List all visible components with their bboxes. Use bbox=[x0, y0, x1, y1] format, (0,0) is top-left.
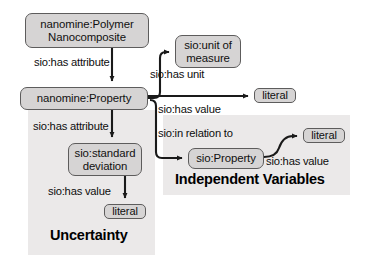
node-sio-property[interactable]: sio:Property bbox=[188, 148, 264, 169]
edge-has-value-independent bbox=[264, 136, 297, 157]
edge-label-has-value-unit: sio:has value bbox=[158, 104, 221, 115]
ontology-diagram: nanomine:Polymer Nanocomposite nanomine:… bbox=[0, 0, 365, 265]
node-sio-unit-of-measure[interactable]: sio:unit of measure bbox=[175, 35, 241, 68]
edge-label-has-value-independent: sio:has value bbox=[266, 156, 329, 167]
node-nanomine-polymer-nanocomposite[interactable]: nanomine:Polymer Nanocomposite bbox=[25, 13, 149, 48]
node-literal-uncertainty-value[interactable]: literal bbox=[104, 204, 146, 219]
edge-label-has-value-uncertainty: sio:has value bbox=[48, 186, 111, 197]
edge-label-has-unit: sio:has unit bbox=[150, 69, 204, 80]
node-nanomine-property[interactable]: nanomine:Property bbox=[20, 87, 148, 110]
node-literal-value[interactable]: literal bbox=[254, 88, 296, 103]
group-caption-independent-variables: Independent Variables bbox=[175, 172, 325, 187]
node-sio-standard-deviation[interactable]: sio:standard deviation bbox=[68, 143, 142, 176]
edge-label-has-attribute-top: sio:has attribute bbox=[34, 57, 110, 68]
edge-label-in-relation-to: sio:in relation to bbox=[158, 128, 233, 139]
group-caption-uncertainty: Uncertainty bbox=[50, 228, 128, 243]
node-literal-independent-value[interactable]: literal bbox=[303, 128, 345, 143]
edge-label-has-attribute-lower: sio:has attribute bbox=[33, 121, 109, 132]
